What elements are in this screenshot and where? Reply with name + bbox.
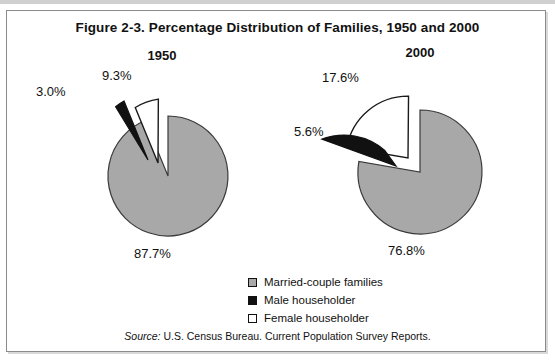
legend-item-married-couple-families: Married-couple families	[248, 274, 383, 290]
source-body: U.S. Census Bureau. Current Population S…	[160, 330, 430, 342]
figure-container: Figure 2-3. Percentage Distribution of F…	[0, 0, 555, 362]
legend-item-female-householder: Female householder	[248, 310, 383, 326]
legend-label-female-householder: Female householder	[264, 312, 369, 324]
data-label-2000-male: 5.6%	[294, 124, 324, 139]
data-label-2000-female: 17.6%	[322, 70, 359, 85]
pie-chart-2000	[328, 80, 518, 250]
legend-label-married-couple: Married-couple families	[264, 276, 383, 288]
source-note: Source: U.S. Census Bureau. Current Popu…	[0, 330, 555, 342]
data-label-1950-male: 3.0%	[36, 84, 66, 99]
legend-item-male-householder: Male householder	[248, 292, 383, 308]
legend-swatch-male-householder-icon	[248, 296, 257, 305]
data-label-2000-married: 76.8%	[388, 243, 425, 258]
legend-swatch-female-householder-icon	[248, 314, 257, 323]
pie-chart-1950	[78, 86, 264, 246]
data-label-1950-female: 9.3%	[102, 68, 132, 83]
legend-swatch-married-couple-icon	[248, 278, 257, 287]
figure-title: Figure 2-3. Percentage Distribution of F…	[0, 20, 555, 35]
scan-edge-artifact	[0, 0, 555, 4]
data-label-1950-married: 87.7%	[134, 246, 171, 261]
panel-year-2000: 2000	[380, 45, 460, 60]
chart-legend: Married-couple families Male householder…	[248, 274, 383, 328]
slice-1950-married-couple	[108, 116, 228, 236]
legend-label-male-householder: Male householder	[264, 294, 355, 306]
panel-year-1950: 1950	[122, 48, 202, 63]
source-prefix: Source:	[124, 330, 160, 342]
